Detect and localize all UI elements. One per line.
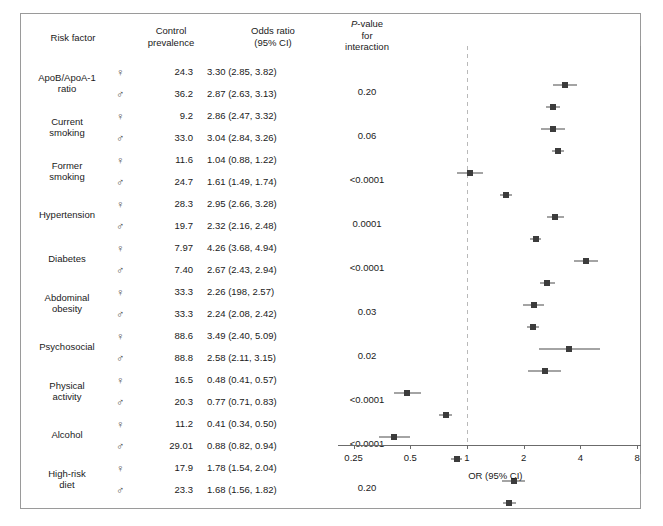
odds-ratio-value: 1.68 (1.56, 1.82)	[207, 479, 333, 501]
odds-ratio-marker	[404, 390, 410, 396]
risk-factor-label-line2: obesity	[23, 303, 111, 315]
x-axis-tick-label: 2	[521, 452, 526, 463]
x-axis-tick	[410, 445, 411, 449]
odds-ratio-value: 2.67 (2.43, 2.94)	[207, 259, 333, 281]
odds-ratio-marker	[506, 500, 512, 506]
risk-factor-label-line2: smoking	[23, 127, 111, 139]
risk-factor-label-line2: activity	[23, 391, 111, 403]
x-axis-title: OR (95% CI)	[354, 470, 638, 481]
control-prevalence-value: 88.6	[127, 325, 193, 347]
odds-ratio-marker	[562, 82, 568, 88]
column-header-p-value-line1: P-value	[321, 18, 413, 30]
control-prevalence-value: 33.3	[127, 303, 193, 325]
odds-ratio-value: 3.04 (2.84, 3.26)	[207, 127, 333, 149]
odds-ratio-marker	[391, 434, 397, 440]
risk-factor-label-line1: Diabetes	[23, 253, 111, 265]
odds-ratio-value: 2.86 (2.47, 3.32)	[207, 105, 333, 127]
control-prevalence-value: 9.2	[127, 105, 193, 127]
risk-factor-label-line1: Current	[23, 116, 111, 128]
control-prevalence-value: 20.3	[127, 391, 193, 413]
control-prevalence-value: 28.3	[127, 193, 193, 215]
odds-ratio-marker	[531, 302, 537, 308]
x-axis-tick	[580, 445, 581, 449]
x-axis-tick	[354, 445, 355, 449]
odds-ratio-marker	[550, 126, 556, 132]
x-axis-tick	[637, 445, 638, 449]
risk-factor-label: Hypertension	[23, 209, 111, 221]
column-header-odds-ratio-title: Odds ratio	[217, 25, 329, 37]
risk-factor-label-line1: Psychosocial	[23, 341, 111, 353]
odds-ratio-marker	[566, 346, 572, 352]
column-header-odds-ratio: Odds ratio (95% CI)	[217, 25, 329, 48]
control-prevalence-value: 11.6	[127, 149, 193, 171]
control-prevalence-value: 24.3	[127, 61, 193, 83]
risk-factor-label-line2: ratio	[23, 83, 111, 95]
odds-ratio-marker	[454, 456, 460, 462]
odds-ratio-value: 4.26 (3.68, 4.94)	[207, 237, 333, 259]
reference-line-or-1	[467, 46, 468, 445]
control-prevalence-value: 7.40	[127, 259, 193, 281]
x-axis-tick-label: 4	[578, 452, 583, 463]
x-axis-tick	[467, 445, 468, 449]
odds-ratio-value: 2.87 (2.63, 3.13)	[207, 83, 333, 105]
column-header-control-prevalence-line2: prevalence	[129, 37, 213, 49]
control-prevalence-value: 33.3	[127, 281, 193, 303]
odds-ratio-value: 1.04 (0.88, 1.22)	[207, 149, 333, 171]
odds-ratio-marker	[503, 192, 509, 198]
risk-factor-label: Currentsmoking	[23, 116, 111, 139]
risk-factor-label: Diabetes	[23, 253, 111, 265]
odds-ratio-value: 2.24 (2.08, 2.42)	[207, 303, 333, 325]
x-axis-tick-label: 1	[464, 452, 469, 463]
odds-ratio-marker	[443, 412, 449, 418]
p-value-suffix: -value	[357, 18, 383, 29]
risk-factor-label-line2: smoking	[23, 171, 111, 183]
odds-ratio-value: 1.78 (1.54, 2.04)	[207, 457, 333, 479]
odds-ratio-marker	[533, 236, 539, 242]
control-prevalence-value: 23.3	[127, 479, 193, 501]
odds-ratio-marker	[555, 148, 561, 154]
column-header-control-prevalence-line1: Control	[129, 25, 213, 37]
odds-ratio-value: 2.95 (2.66, 3.28)	[207, 193, 333, 215]
forest-plot-figure: Risk factor Control prevalence Odds rati…	[20, 13, 641, 509]
control-prevalence-value: 19.7	[127, 215, 193, 237]
odds-ratio-value: 0.41 (0.34, 0.50)	[207, 413, 333, 435]
risk-factor-label: Abdominalobesity	[23, 292, 111, 315]
odds-ratio-value: 0.88 (0.82, 0.94)	[207, 435, 333, 457]
odds-ratio-marker	[552, 214, 558, 220]
column-header-risk-factor: Risk factor	[27, 32, 119, 44]
risk-factor-label: Physicalactivity	[23, 380, 111, 403]
control-prevalence-value: 16.5	[127, 369, 193, 391]
control-prevalence-value: 33.0	[127, 127, 193, 149]
odds-ratio-marker	[544, 280, 550, 286]
odds-ratio-value: 0.48 (0.41, 0.57)	[207, 369, 333, 391]
risk-factor-label-line1: Abdominal	[23, 292, 111, 304]
odds-ratio-value: 2.26 (198, 2.57)	[207, 281, 333, 303]
control-prevalence-value: 88.8	[127, 347, 193, 369]
forest-plot-area: 0.250.51248 OR (95% CI)	[333, 46, 641, 509]
risk-factor-label-line1: Alcohol	[23, 429, 111, 441]
control-prevalence-value: 17.9	[127, 457, 193, 479]
x-axis-line	[338, 445, 641, 446]
odds-ratio-marker	[583, 258, 589, 264]
risk-factor-label-line1: Former	[23, 160, 111, 172]
odds-ratio-value: 0.77 (0.71, 0.83)	[207, 391, 333, 413]
column-header-control-prevalence: Control prevalence	[129, 25, 213, 48]
risk-factor-label-line2: diet	[23, 479, 111, 491]
control-prevalence-value: 36.2	[127, 83, 193, 105]
x-axis-tick-label: 0.25	[344, 452, 363, 463]
control-prevalence-value: 29.01	[127, 435, 193, 457]
risk-factor-label: High-riskdiet	[23, 468, 111, 491]
control-prevalence-value: 24.7	[127, 171, 193, 193]
figure-inner: Risk factor Control prevalence Odds rati…	[21, 14, 640, 508]
risk-factor-label: Formersmoking	[23, 160, 111, 183]
odds-ratio-marker	[467, 170, 473, 176]
odds-ratio-marker	[542, 368, 548, 374]
odds-ratio-value: 2.32 (2.16, 2.48)	[207, 215, 333, 237]
risk-factor-label-line1: Hypertension	[23, 209, 111, 221]
odds-ratio-value: 2.58 (2.11, 3.15)	[207, 347, 333, 369]
control-prevalence-value: 7.97	[127, 237, 193, 259]
x-axis-tick	[524, 445, 525, 449]
risk-factor-label-line1: Physical	[23, 380, 111, 392]
odds-ratio-value: 3.30 (2.85, 3.82)	[207, 61, 333, 83]
risk-factor-label-line1: High-risk	[23, 468, 111, 480]
